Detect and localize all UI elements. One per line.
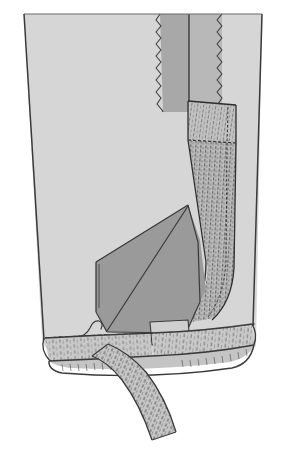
- seam-allowance-right: [189, 14, 222, 104]
- illustration-figure: [0, 0, 282, 460]
- garment-construction-diagram: [0, 0, 282, 460]
